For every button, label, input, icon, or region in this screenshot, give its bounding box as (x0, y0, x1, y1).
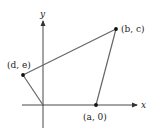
point-bc (114, 27, 118, 31)
edge-bc-to-a0 (96, 29, 116, 105)
point-de-label: (d, e) (7, 60, 31, 70)
point-a0-label: (a, 0) (83, 112, 107, 122)
edge-de-to-bc (23, 29, 116, 75)
quadrilateral-diagram: y x (b, c) (d, e) (a, 0) (0, 0, 154, 132)
y-axis-label: y (39, 9, 46, 19)
edge-origin-to-de (23, 75, 43, 105)
x-axis-label: x (141, 100, 146, 110)
point-bc-label: (b, c) (121, 24, 145, 34)
point-a0 (94, 103, 98, 107)
point-de (21, 73, 25, 77)
